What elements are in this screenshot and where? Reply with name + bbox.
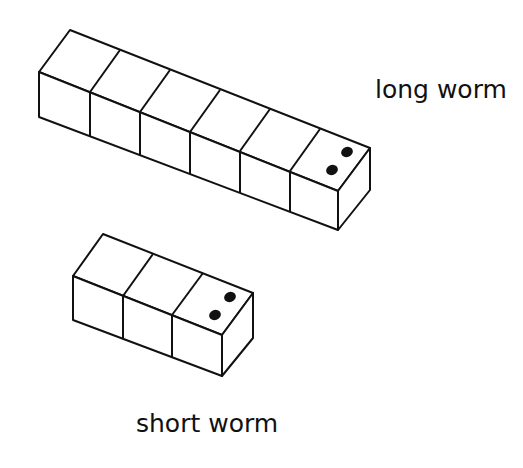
short-worm-label: short worm: [136, 409, 278, 438]
long-worm-label: long worm: [375, 75, 507, 104]
short-worm: [73, 234, 253, 376]
long-worm: [39, 30, 370, 230]
worm-diagram: long worm short worm: [0, 0, 523, 468]
